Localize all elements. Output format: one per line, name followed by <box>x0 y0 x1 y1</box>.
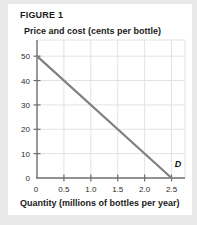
figure-body: FIGURE 1 Price and cost (cents per bottl… <box>8 4 192 215</box>
x-tick-label: 1.5 <box>112 185 124 194</box>
y-tick-label: 10 <box>21 150 30 159</box>
data-series <box>37 56 172 178</box>
y-tick-label: 50 <box>21 52 30 61</box>
x-tick-label: 0.5 <box>58 185 70 194</box>
demand-chart-plot: 0102030405000.51.01.52.02.5 D <box>8 4 192 215</box>
axes <box>36 40 185 178</box>
series-labels: D <box>175 159 182 169</box>
page-edge-left <box>0 0 8 225</box>
tick-marks <box>34 56 172 181</box>
y-tick-label: 0 <box>26 174 31 183</box>
page-edge-bottom <box>0 215 197 225</box>
y-tick-label: 30 <box>21 101 30 110</box>
x-tick-label: 2.0 <box>139 185 151 194</box>
figure-card: FIGURE 1 Price and cost (cents per bottl… <box>0 0 197 225</box>
x-axis-title: Quantity (millions of bottles per year) <box>20 198 180 208</box>
tick-labels: 0102030405000.51.01.52.02.5 <box>21 52 178 194</box>
gridlines <box>37 40 185 178</box>
y-tick-label: 20 <box>21 125 30 134</box>
demand-curve <box>37 56 172 178</box>
x-tick-label: 0 <box>34 185 39 194</box>
x-tick-label: 1.0 <box>85 185 97 194</box>
y-tick-label: 40 <box>21 77 30 86</box>
page-edge-right <box>192 0 197 225</box>
x-tick-label: 2.5 <box>166 185 178 194</box>
demand-curve-label: D <box>175 159 182 169</box>
